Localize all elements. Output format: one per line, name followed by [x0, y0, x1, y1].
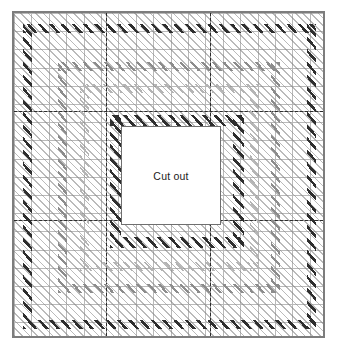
- plate-outline: Cut out: [12, 11, 325, 338]
- cut-out-region: Cut out: [121, 126, 221, 225]
- cut-out-label: Cut out: [153, 170, 188, 182]
- centre-line-horizontal-1: [14, 111, 323, 112]
- mesh-figure: Cut out: [0, 0, 339, 349]
- centre-line-vertical-1: [106, 13, 107, 336]
